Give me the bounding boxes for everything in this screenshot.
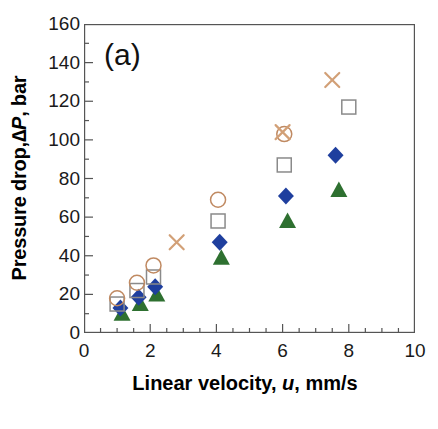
data-point-circle-open — [146, 258, 161, 273]
y-tick-label: 20 — [32, 283, 80, 305]
series-filled-diamond — [112, 147, 343, 317]
y-tick-label: 80 — [32, 168, 80, 190]
data-point-circle-open — [110, 291, 125, 306]
y-tick-label: 140 — [32, 52, 80, 74]
x-tick-label: 8 — [329, 340, 369, 362]
x-tick-label: 10 — [395, 340, 435, 362]
x-axis-title: Linear velocity, u, mm/s — [70, 372, 420, 395]
data-point-circle-open — [129, 275, 144, 290]
x-axis-title-symbol: u — [282, 372, 294, 394]
data-point-triangle-filled — [279, 212, 296, 228]
data-point-square-open — [277, 158, 291, 172]
data-point-circle-open — [211, 192, 226, 207]
series-filled-triangle — [114, 182, 348, 321]
data-point-square-open — [211, 214, 225, 228]
data-point-square-open — [342, 100, 356, 114]
series-open-square — [110, 100, 356, 311]
x-tick-label: 0 — [64, 340, 104, 362]
x-tick-label: 4 — [196, 340, 236, 362]
panel-label: (a) — [104, 38, 141, 72]
x-axis-tick-labels: 0246810 — [84, 340, 415, 366]
data-point-diamond-filled — [212, 234, 228, 251]
data-point-x-cross — [325, 73, 339, 87]
y-axis-tick-labels: 020406080100120140160 — [28, 24, 80, 333]
x-axis-title-prefix: Linear velocity, — [132, 372, 282, 394]
data-point-x-cross — [170, 235, 184, 249]
series-cross — [170, 73, 340, 249]
x-tick-label: 6 — [263, 340, 303, 362]
y-tick-label: 160 — [32, 13, 80, 35]
data-point-triangle-filled — [330, 182, 347, 198]
pressure-drop-scatter-figure: Pressure drop, ∆P, bar 02040608010012014… — [0, 0, 438, 429]
data-point-diamond-filled — [278, 187, 294, 204]
y-tick-label: 60 — [32, 206, 80, 228]
y-tick-label: 100 — [32, 129, 80, 151]
data-point-triangle-filled — [213, 249, 230, 265]
data-point-diamond-filled — [328, 147, 344, 164]
series-open-circle — [110, 127, 292, 306]
x-axis-title-suffix: , mm/s — [294, 372, 357, 394]
x-tick-label: 2 — [130, 340, 170, 362]
y-tick-label: 120 — [32, 90, 80, 112]
y-tick-label: 40 — [32, 245, 80, 267]
